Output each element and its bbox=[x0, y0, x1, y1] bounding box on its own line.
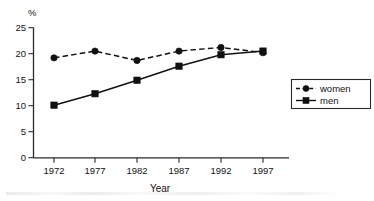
y-tick-label: 0 bbox=[21, 152, 26, 163]
data-point-marker-square: men 1982: 14.9 bbox=[134, 77, 140, 83]
y-tick-label: 10 bbox=[15, 100, 26, 111]
x-tick-label: 1972 bbox=[43, 165, 64, 176]
data-point-marker-square: men 1987: 17.6 bbox=[176, 63, 182, 69]
data-point-marker-square: men 1972: 10.1 bbox=[51, 102, 57, 108]
y-axis-ticks bbox=[29, 28, 34, 158]
legend-circle-marker-icon bbox=[303, 86, 309, 92]
line-chart: % 25 20 15 10 5 0 bbox=[0, 0, 374, 201]
legend-item-label: women bbox=[319, 83, 351, 94]
series-men: men 1972: 10.1men 1977: 12.3men 1982: 14… bbox=[51, 48, 266, 108]
legend-square-marker-icon bbox=[303, 98, 309, 104]
x-tick-label: 1987 bbox=[168, 165, 189, 176]
data-point-marker-circle: women 1972: 19.2 bbox=[51, 55, 57, 61]
series-men-markers: men 1972: 10.1men 1977: 12.3men 1982: 14… bbox=[51, 48, 266, 108]
legend-item-label: men bbox=[320, 95, 338, 106]
x-axis-ticks bbox=[54, 158, 263, 163]
x-tick-label: 1982 bbox=[126, 165, 147, 176]
data-point-marker-square: men 1977: 12.3 bbox=[92, 91, 98, 97]
y-axis-unit-label: % bbox=[28, 7, 37, 18]
y-axis-tick-labels: 25 20 15 10 5 0 bbox=[15, 22, 26, 163]
chart-legend: women men bbox=[292, 80, 371, 109]
y-tick-label: 20 bbox=[15, 48, 26, 59]
data-point-marker-circle: women 1987: 20.5 bbox=[176, 48, 182, 54]
y-tick-label: 15 bbox=[15, 74, 26, 85]
data-point-marker-circle: women 1977: 20.5 bbox=[92, 48, 98, 54]
data-point-marker-circle: women 1997: 20.2 bbox=[260, 49, 266, 55]
x-axis-title: Year bbox=[150, 183, 171, 194]
x-axis-tick-labels: 1972 1977 1982 1987 1992 1997 bbox=[43, 165, 273, 176]
y-tick-label: 5 bbox=[21, 126, 26, 137]
data-point-marker-circle: women 1982: 18.7 bbox=[134, 57, 140, 63]
y-tick-label: 25 bbox=[15, 22, 26, 33]
x-tick-label: 1977 bbox=[84, 165, 105, 176]
series-men-line bbox=[54, 51, 263, 105]
x-tick-label: 1992 bbox=[210, 165, 231, 176]
x-tick-label: 1997 bbox=[252, 165, 273, 176]
data-point-marker-circle: women 1992: 21.2 bbox=[218, 44, 224, 50]
data-point-marker-square: men 1992: 19.8 bbox=[218, 52, 224, 58]
